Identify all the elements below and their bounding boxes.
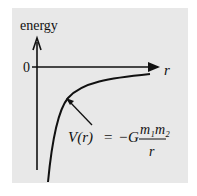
potential-curve xyxy=(48,74,150,182)
potential-energy-diagram: energy r 0 V(r) = −G m₁m₂ r xyxy=(0,0,197,196)
x-axis-label: r xyxy=(164,62,170,78)
formula-prefix: −G xyxy=(118,129,139,145)
y-axis-label: energy xyxy=(20,18,58,33)
formula-equals: = xyxy=(104,129,112,145)
formula: V(r) = −G m₁m₂ r xyxy=(68,122,170,159)
formula-numerator: m₁m₂ xyxy=(140,122,170,137)
origin-label: 0 xyxy=(23,60,30,75)
x-axis xyxy=(32,62,160,72)
y-axis xyxy=(33,38,41,170)
pointer-arrow xyxy=(66,98,92,125)
x-axis-arrow-icon xyxy=(148,62,160,72)
formula-denominator: r xyxy=(149,144,155,159)
formula-lhs: V(r) xyxy=(68,129,93,146)
pointer-arrow-icon xyxy=(66,98,74,105)
